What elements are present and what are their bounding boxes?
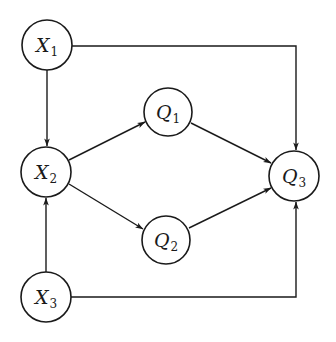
edge-x2-q1 <box>69 122 145 160</box>
node-letter: Q <box>154 229 170 251</box>
edge-q1-q3 <box>191 123 271 163</box>
node-subscript: 3 <box>50 297 58 311</box>
node-subscript: 2 <box>171 240 179 254</box>
node-letter: Q <box>282 165 298 187</box>
node-q2: Q2 <box>142 216 190 264</box>
node-letter: X <box>34 34 51 56</box>
node-subscript: 1 <box>51 45 59 59</box>
node-x2: X2 <box>21 147 71 197</box>
node-q1: Q1 <box>144 88 192 136</box>
node-subscript: 1 <box>173 112 181 126</box>
edge-q2-q3 <box>189 188 271 228</box>
node-x3: X3 <box>21 272 71 322</box>
causal-diagram: X1 X2 X3 Q1 Q2 Q3 <box>0 0 336 342</box>
node-q3: Q3 <box>269 151 319 201</box>
node-letter: X <box>33 286 50 308</box>
node-subscript: 3 <box>299 176 307 190</box>
node-letter: X <box>33 161 50 183</box>
node-letter: Q <box>156 101 172 123</box>
edge-x2-q2 <box>69 184 143 229</box>
node-x1: X1 <box>22 20 72 70</box>
node-subscript: 2 <box>50 172 58 186</box>
